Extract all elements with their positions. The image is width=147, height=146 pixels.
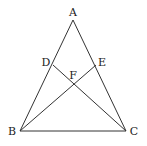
label-d: D (42, 56, 51, 69)
triangle-diagram: A B C D E F (0, 0, 147, 146)
label-b: B (8, 125, 16, 138)
label-a: A (68, 6, 78, 19)
segment-ac (73, 20, 126, 131)
segment-dc (53, 65, 126, 131)
segment-eb (20, 65, 96, 131)
label-f: F (69, 69, 77, 82)
label-e: E (98, 56, 106, 69)
label-c: C (130, 125, 138, 138)
